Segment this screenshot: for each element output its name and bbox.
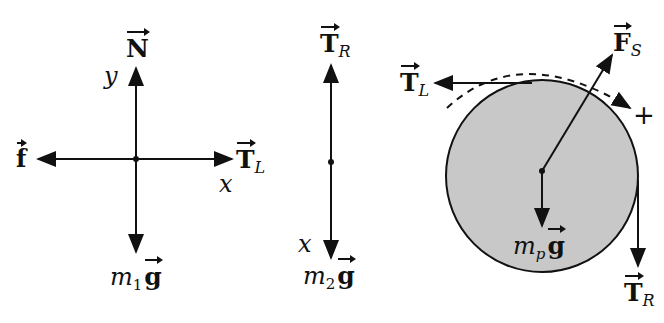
symbol-m: m — [303, 262, 326, 290]
label-pulley-tension-right: TR — [624, 280, 655, 309]
label-pulley-weight: mpg — [513, 233, 565, 262]
subscript-2: 2 — [326, 275, 336, 293]
symbol-m: m — [513, 232, 536, 260]
label-weight-m2: m2g — [303, 263, 355, 292]
free-body-diagrams: N y f TL x m1g TR x m2g TL FS + mpg TR — [0, 0, 664, 323]
mass-center-dot — [328, 159, 334, 165]
label-support-force: FS — [613, 30, 642, 59]
block-fbd — [38, 68, 232, 252]
subscript-1: 1 — [133, 276, 143, 294]
label-normal-force: N — [126, 36, 149, 61]
symbol-f: f — [16, 147, 26, 171]
label-friction: f — [16, 147, 26, 171]
label-axis-y: y — [104, 64, 118, 88]
label-pulley-tension-left: TL — [400, 70, 429, 99]
symbol-T: T — [236, 147, 255, 172]
subscript-R: R — [339, 42, 351, 61]
symbol-N: N — [126, 36, 149, 61]
symbol-T: T — [624, 280, 643, 305]
subscript-S: S — [631, 41, 642, 60]
label-tension-left: TL — [236, 147, 265, 176]
subscript-L: L — [419, 81, 430, 100]
label-tension-right: TR — [320, 31, 351, 60]
symbol-g: g — [144, 264, 161, 289]
symbol-g: g — [337, 263, 354, 288]
label-axis-x: x — [219, 172, 233, 196]
symbol-g: g — [547, 233, 564, 258]
label-weight-m1: m1g — [110, 264, 162, 293]
hanging-mass-fbd — [328, 65, 334, 258]
subscript-L: L — [255, 158, 266, 177]
subscript-p: p — [536, 245, 546, 263]
pulley-center-dot — [539, 168, 545, 174]
symbol-m: m — [110, 263, 133, 291]
rotation-sign-plus: + — [633, 102, 655, 128]
label-axis-x-2: x — [298, 232, 312, 256]
symbol-T: T — [400, 70, 419, 95]
symbol-F: F — [613, 30, 631, 55]
subscript-R: R — [643, 291, 655, 310]
block-center-dot — [133, 156, 139, 162]
symbol-T: T — [320, 31, 339, 56]
